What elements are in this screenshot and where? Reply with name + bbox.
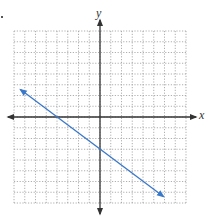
x-axis-label: x (199, 108, 204, 123)
coordinate-plane (0, 0, 211, 222)
data-line (20, 90, 163, 197)
y-axis-label: y (96, 6, 101, 21)
